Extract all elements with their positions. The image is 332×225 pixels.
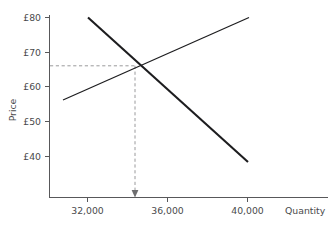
supply-curve: [63, 18, 249, 101]
equilibrium-quantity-arrow-icon: [132, 190, 139, 198]
price-quantity-chart: £80 £70 £60 £50 £40 32,000 36,000 40,000…: [0, 0, 332, 225]
x-tick-label-40000: 40,000: [231, 205, 264, 216]
demand-curve: [88, 18, 248, 163]
x-tick-label-36000: 36,000: [151, 205, 184, 216]
y-tick-label-80: £80: [23, 12, 41, 23]
y-axis-title: Price: [7, 98, 18, 121]
x-axis-title: Quantity: [285, 205, 326, 216]
y-tick-label-70: £70: [23, 47, 41, 58]
chart-canvas: £80 £70 £60 £50 £40 32,000 36,000 40,000…: [0, 0, 332, 225]
y-tick-label-60: £60: [23, 81, 41, 92]
y-tick-label-50: £50: [23, 116, 41, 127]
y-tick-label-40: £40: [23, 151, 41, 162]
x-tick-label-32000: 32,000: [71, 205, 104, 216]
